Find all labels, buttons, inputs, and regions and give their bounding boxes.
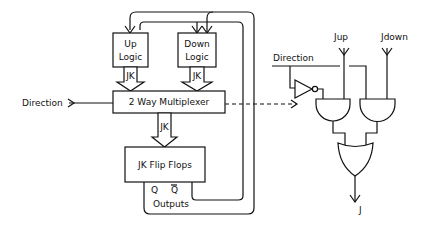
gate-direction-label: Direction	[273, 53, 314, 63]
outputs-label: Outputs	[153, 199, 189, 209]
and-gate-down	[360, 99, 395, 122]
q-bar-output-label: Q	[171, 185, 178, 195]
multiplexer-diagram: Up Logic Down Logic JK JK 2 Way Multiple…	[0, 0, 430, 228]
flip-flops-label: JK Flip Flops	[137, 160, 192, 170]
direction-input-label: Direction	[22, 98, 63, 108]
inverter-gate	[295, 80, 312, 98]
j-output-label: J	[358, 205, 362, 215]
up-jk-label: JK	[125, 71, 136, 81]
and-down-to-or-wire	[366, 121, 377, 145]
up-logic-label-1: Up	[124, 39, 137, 49]
jup-label: Jup	[333, 32, 348, 42]
jdown-label: Jdown	[380, 32, 408, 42]
down-logic-label-1: Down	[184, 39, 210, 49]
multiplexer-label: 2 Way Multiplexer	[129, 97, 210, 107]
q-output-label: Q	[151, 185, 158, 195]
mux-jk-label: JK	[159, 122, 170, 132]
and-gate-up	[316, 99, 350, 121]
or-gate	[338, 143, 373, 176]
direction-wire	[272, 66, 366, 99]
down-jk-label: JK	[192, 71, 203, 81]
inverter-output-wire	[318, 89, 323, 99]
down-logic-label-2: Logic	[185, 52, 209, 62]
and-up-to-or-wire	[333, 121, 345, 145]
inverter-input-wire	[290, 66, 295, 88]
up-logic-label-2: Logic	[119, 52, 143, 62]
inverter-bubble	[312, 86, 317, 91]
